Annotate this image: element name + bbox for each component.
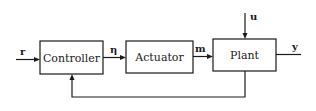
signal-label-eta: η [110,44,117,55]
reference-input-arrow: r [16,46,40,62]
actuator-block: Actuator [126,41,193,73]
signal-label-r: r [20,46,26,57]
plant-block: Plant [213,39,276,71]
arrowhead-icon [34,57,40,62]
signal-label-m: m [195,43,206,54]
arrowhead-icon [70,74,75,80]
block-diagram: Controller Actuator Plant r η m u y [0,0,316,111]
controller-block: Controller [40,41,103,74]
manipulated-signal-arrow: m [193,43,213,59]
arrowhead-icon [207,54,213,59]
signal-label-y: y [291,41,299,52]
control-signal-arrow: η [103,44,126,60]
actuator-label: Actuator [134,51,184,64]
signal-label-u: u [250,11,257,22]
controller-label: Controller [43,52,101,65]
output-line: y [276,41,301,55]
feedback-path [70,71,246,97]
disturbance-input-arrow: u [243,11,258,39]
plant-label: Plant [230,49,260,62]
arrowhead-icon [243,33,248,39]
arrowhead-icon [120,55,126,60]
